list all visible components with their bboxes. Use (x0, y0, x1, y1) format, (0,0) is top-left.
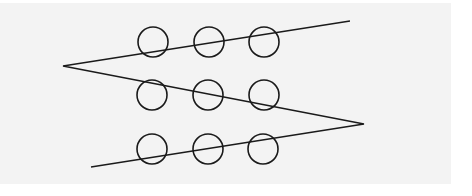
dot-circle-r2c3 (249, 80, 279, 110)
dot-circle-r2c2 (193, 80, 223, 110)
connecting-line-path (63, 21, 364, 167)
dot-circle-r2c1 (137, 80, 167, 110)
diagram-canvas (0, 0, 472, 196)
dot-grid (137, 27, 279, 164)
dot-circle-r1c3 (249, 27, 279, 57)
nine-dot-diagram (0, 0, 472, 196)
